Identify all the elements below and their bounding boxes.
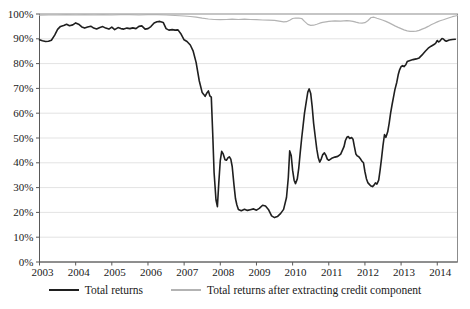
line-plot: 0%10%20%30%40%50%60%70%80%90%100%2003200… [0,0,470,280]
x-tick-label: 2004 [68,266,91,278]
x-tick-label: 2011 [321,266,343,278]
y-tick-label: 90% [13,32,33,44]
y-tick-label: 60% [13,107,33,119]
chart-legend: Total returns Total returns after extrac… [0,284,470,296]
legend-label-credit-component: Total returns after extracting credit co… [207,284,421,296]
legend-label-total-returns: Total returns [85,284,143,296]
chart-figure: 0%10%20%30%40%50%60%70%80%90%100%2003200… [0,0,470,309]
y-tick-label: 30% [13,181,33,193]
legend-item-total-returns: Total returns [49,284,143,296]
y-tick-label: 20% [13,206,33,218]
y-tick-label: 100% [8,8,34,20]
total-returns-line [40,21,456,217]
y-tick-label: 50% [13,132,33,144]
legend-item-credit-component: Total returns after extracting credit co… [171,284,421,296]
y-tick-label: 40% [13,156,33,168]
total-returns-line-swatch [49,289,79,291]
x-tick-label: 2013 [393,266,416,278]
y-tick-label: 80% [13,57,33,69]
x-tick-label: 2003 [32,266,55,278]
x-tick-label: 2009 [248,266,271,278]
y-tick-label: 10% [13,231,33,243]
credit-component-line [40,15,458,32]
x-tick-label: 2007 [176,266,199,278]
y-tick-label: 70% [13,82,33,94]
x-tick-label: 2006 [140,266,163,278]
x-tick-label: 2012 [357,266,379,278]
x-tick-label: 2014 [429,266,452,278]
x-tick-label: 2010 [285,266,308,278]
x-tick-label: 2005 [104,266,127,278]
x-tick-label: 2008 [212,266,235,278]
credit-component-line-swatch [171,289,201,291]
